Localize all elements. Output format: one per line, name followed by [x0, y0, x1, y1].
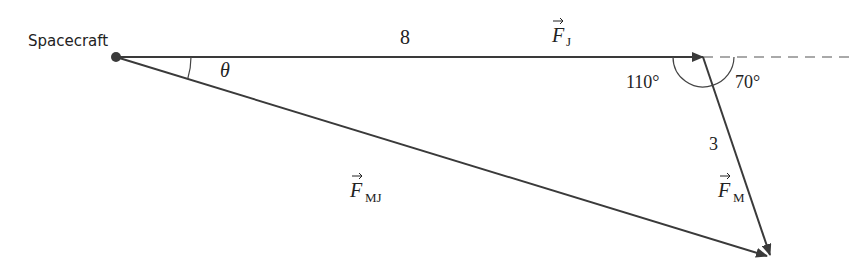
fj-subscript: J	[566, 34, 571, 49]
angle-110-arc	[673, 57, 713, 87]
fj-vector-label: F J	[551, 18, 571, 49]
fj-symbol: F	[551, 24, 565, 46]
vector-triangle-diagram: Spacecraft 8 F J θ 110° 70° 3 F M F MJ	[0, 0, 868, 272]
vector-fmj-line	[116, 57, 767, 256]
theta-label: θ	[220, 59, 230, 81]
fmj-vector-label: F MJ	[349, 173, 382, 205]
fj-magnitude-label: 8	[400, 26, 410, 48]
fm-symbol: F	[717, 179, 731, 201]
spacecraft-point	[111, 52, 121, 62]
fm-subscript: M	[733, 190, 745, 205]
spacecraft-label: Spacecraft	[28, 32, 108, 50]
angle-70-label: 70°	[735, 72, 760, 92]
angle-70-arc	[713, 57, 734, 85]
fmj-symbol: F	[349, 179, 363, 201]
fm-magnitude-label: 3	[709, 134, 718, 154]
fm-vector-label: F M	[717, 173, 745, 205]
theta-angle-arc	[188, 57, 191, 79]
angle-110-label: 110°	[626, 72, 660, 92]
fmj-subscript: MJ	[365, 190, 382, 205]
